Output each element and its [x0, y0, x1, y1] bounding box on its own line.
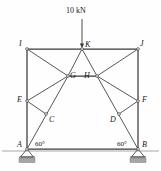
joint-label-D: D — [110, 116, 116, 124]
joint-marker-B — [137, 148, 140, 151]
member-FH — [97, 76, 138, 101]
angle-label-A: 60° — [35, 141, 45, 148]
member-EC — [27, 101, 46, 114]
joint-marker-C — [45, 113, 48, 116]
joint-marker-J — [137, 48, 140, 51]
member-EG — [27, 76, 68, 101]
truss-diagram-figure: 10 kN ABCDEFGHIJK 60°60° — [0, 0, 161, 171]
joint-marker-F — [137, 100, 140, 103]
joint-marker-E — [26, 100, 29, 103]
load-label: 10 kN — [66, 7, 86, 15]
joint-label-I: I — [19, 40, 22, 48]
joint-label-J: J — [140, 40, 144, 48]
joint-label-C: C — [49, 116, 54, 124]
joint-label-G: G — [70, 72, 76, 80]
joint-marker-G — [67, 75, 70, 78]
truss-members — [27, 49, 138, 149]
angle-label-B: 60° — [117, 141, 127, 148]
joint-marker-H — [96, 75, 99, 78]
joint-marker-A — [26, 148, 29, 151]
truss-drawing-canvas — [0, 0, 161, 171]
joint-markers — [26, 48, 140, 151]
member-FD — [119, 101, 138, 114]
member-BH — [97, 76, 138, 149]
joint-marker-K — [81, 48, 84, 51]
joint-label-K: K — [85, 41, 90, 49]
member-JH — [97, 49, 138, 76]
joint-marker-I — [26, 48, 29, 51]
joint-marker-D — [118, 113, 121, 116]
joint-label-E: E — [17, 96, 22, 104]
joint-label-A: A — [17, 141, 22, 149]
joint-label-H: H — [84, 72, 90, 80]
load-arrow — [80, 19, 84, 48]
load-arrowhead — [80, 44, 84, 48]
joint-label-F: F — [142, 96, 147, 104]
joint-label-B: B — [142, 141, 147, 149]
member-IG — [27, 49, 68, 76]
member-AG — [27, 76, 68, 149]
